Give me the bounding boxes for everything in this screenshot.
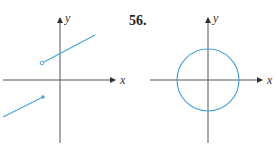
- y-axis-label: y: [212, 11, 219, 25]
- lower-segment: [3, 97, 43, 117]
- upper-segment: [44, 35, 95, 62]
- left-graph: x y: [3, 11, 126, 143]
- right-graph: x y: [150, 11, 273, 143]
- open-circle: [40, 61, 44, 65]
- graphs: x y x y: [0, 0, 276, 149]
- x-axis-label: x: [266, 73, 273, 87]
- filled-dot: [41, 95, 45, 99]
- y-axis-label: y: [64, 11, 71, 25]
- x-axis-label: x: [119, 73, 126, 87]
